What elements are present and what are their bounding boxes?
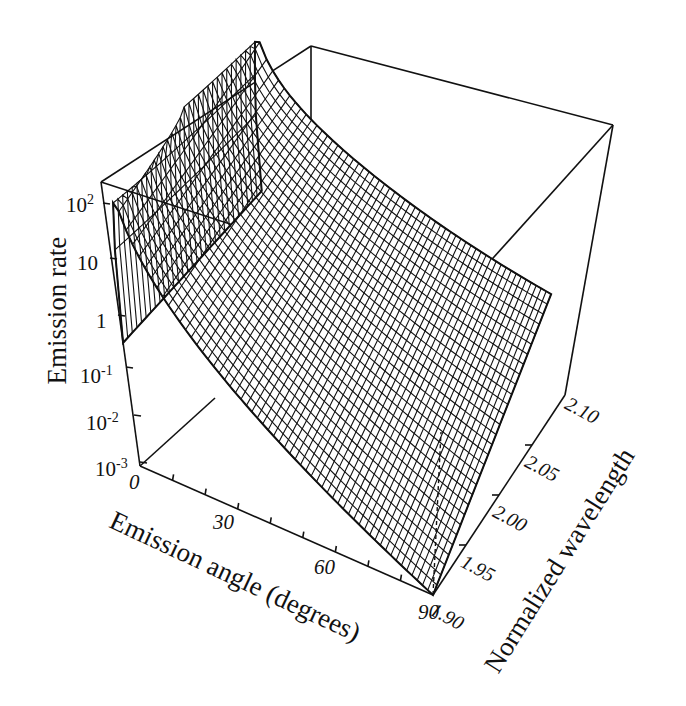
x-tick-label: 0 [129, 470, 140, 495]
z-tick-label: 10-1 [80, 364, 113, 389]
x-tick-label: 60 [314, 555, 335, 580]
x-tick-label: 30 [213, 510, 234, 535]
z-tick-label: 10 [77, 251, 98, 276]
z-tick-label: 10-2 [86, 411, 119, 436]
z-tick-label: 1 [96, 309, 107, 334]
z-tick-label: 10-3 [95, 457, 128, 482]
z-tick-label: 102 [66, 193, 94, 218]
z-axis-title: Emission rate [42, 226, 73, 396]
wireframe-surface [113, 42, 551, 595]
surface-plot [0, 0, 686, 706]
